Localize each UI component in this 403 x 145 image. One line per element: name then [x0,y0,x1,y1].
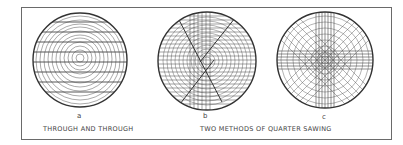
panel-label-a: a [77,112,81,120]
log-b-quarter-sawing [158,12,256,110]
panel-label-b: b [203,112,207,120]
panel-label-c: c [322,113,326,121]
caption-through-and-through: THROUGH AND THROUGH [43,125,134,133]
log-a-through-and-through [30,13,130,107]
log-c-quarter-sawing [277,12,373,108]
sawing-diagrams [0,0,403,145]
caption-quarter-sawing: TWO METHODS OF QUARTER SAWING [200,125,332,133]
